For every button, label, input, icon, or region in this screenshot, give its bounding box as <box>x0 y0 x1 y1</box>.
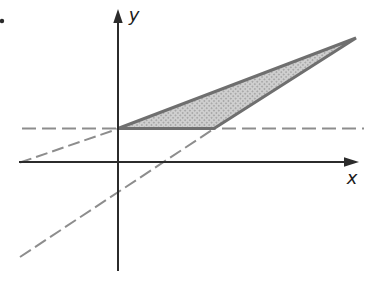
generated-shapes <box>0 9 364 271</box>
x-axis-label: x <box>346 167 358 188</box>
x-axis-arrowhead-icon <box>344 157 359 166</box>
problem-number-dot <box>0 19 4 23</box>
y-axis-label: y <box>128 4 140 25</box>
figure-canvas: x y <box>0 0 369 283</box>
shallow-diagonal-dashed-line <box>20 129 118 163</box>
y-axis-arrowhead-icon <box>113 9 122 23</box>
diagram-svg: x y <box>0 0 369 283</box>
shaded-triangle <box>118 38 356 129</box>
steep-diagonal-dashed-line <box>20 129 214 257</box>
